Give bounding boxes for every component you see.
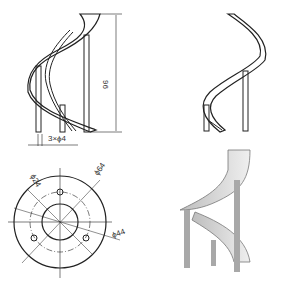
top-view [8,168,120,278]
iso-wire-view [203,14,266,132]
hole-note: 3×ϕ4 [48,134,67,143]
dim-phi44: ϕ44 [111,227,127,240]
iso-shaded-view [180,150,250,272]
dim-phi64: ϕ64 [92,161,107,178]
height-dimension: 96 [101,80,110,89]
drawing-svg: 96 3×ϕ4 ϕ24 ϕ64 ϕ44 [0,0,285,289]
technical-drawing: 96 3×ϕ4 ϕ24 ϕ64 ϕ44 [0,0,285,289]
